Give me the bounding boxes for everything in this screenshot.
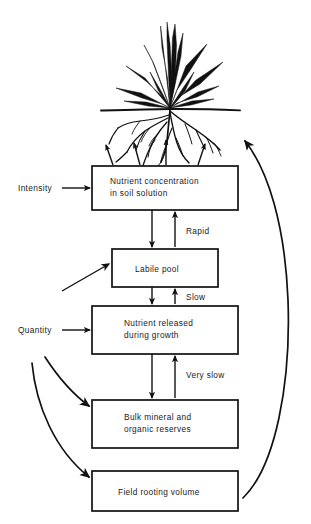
exchange-arrows-very-slow [152, 354, 175, 398]
uptake-arrow-1 [106, 145, 113, 165]
side-label-quantity: Quantity [18, 325, 52, 335]
box-label-line-1: Bulk mineral and [124, 412, 191, 422]
plant-illustration [101, 22, 240, 169]
exchange-arrows-slow [152, 287, 175, 304]
diagram-canvas: Nutrient concentration in soil solution … [0, 0, 311, 524]
box-label-line-1: Nutrient concentration [110, 176, 199, 186]
uptake-arrows [106, 140, 205, 165]
box-label-line-2: organic reserves [124, 424, 191, 434]
box-label-line-1: Field rooting volume [118, 487, 200, 497]
plant-roots [109, 110, 221, 169]
uptake-arrow-4 [198, 144, 205, 165]
box-labile-pool[interactable]: Labile pool [112, 249, 218, 287]
box-bulk-mineral[interactable]: Bulk mineral and organic reserves [92, 400, 238, 448]
box-label-line-2: during growth [124, 330, 179, 340]
arrow-into-labile-pool [62, 264, 109, 291]
plant-leaves [116, 22, 223, 108]
exchange-arrows-rapid [152, 210, 175, 247]
box-label-line-2: in soil solution [110, 188, 168, 198]
box-label-line-1: Labile pool [135, 264, 179, 274]
side-label-intensity: Intensity [18, 183, 53, 193]
rate-label-slow: Slow [186, 292, 206, 302]
box-label-line-1: Nutrient released [124, 318, 193, 328]
curve-to-bulk-mineral [45, 357, 89, 406]
return-arc-to-roots [243, 141, 288, 498]
box-field-rooting-volume[interactable]: Field rooting volume [92, 471, 238, 511]
box-nutrient-released[interactable]: Nutrient released during growth [92, 306, 238, 354]
nutrient-flow-diagram: Nutrient concentration in soil solution … [0, 0, 311, 524]
rate-label-very-slow: Very slow [186, 370, 225, 380]
curve-to-field-rooting-volume [32, 363, 89, 477]
rate-label-rapid: Rapid [186, 226, 209, 236]
box-nutrient-concentration[interactable]: Nutrient concentration in soil solution [92, 166, 238, 210]
